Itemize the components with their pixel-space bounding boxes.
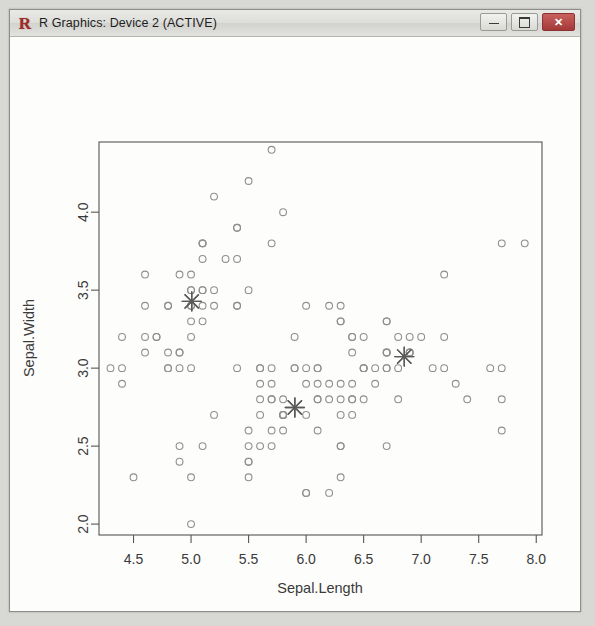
minimize-button[interactable] (480, 13, 507, 31)
cluster-centers-layer (182, 292, 414, 417)
maximize-button[interactable] (511, 13, 538, 31)
data-point (107, 365, 114, 372)
data-point (211, 193, 218, 200)
data-point (337, 474, 344, 481)
cluster-center-marker (182, 292, 201, 311)
window-controls: ✕ (480, 13, 575, 31)
data-point (257, 380, 264, 387)
x-tick-label: 4.5 (124, 551, 144, 567)
y-axis: 2.02.53.03.54.0 (75, 202, 99, 534)
data-point (268, 427, 275, 434)
data-point (257, 412, 264, 419)
data-point (441, 271, 448, 278)
y-tick-label: 4.0 (75, 202, 91, 222)
data-point (337, 380, 344, 387)
maximize-icon (519, 17, 530, 28)
data-point (280, 427, 287, 434)
data-point (211, 302, 218, 309)
data-point (153, 334, 160, 341)
data-point (498, 240, 505, 247)
r-logo-icon: R (16, 14, 34, 33)
data-point (245, 458, 252, 465)
data-point (130, 474, 137, 481)
y-axis-title: Sepal.Width (21, 299, 37, 377)
data-point (383, 349, 390, 356)
data-point (234, 365, 241, 372)
data-point (142, 334, 149, 341)
window-titlebar[interactable]: R R Graphics: Device 2 (ACTIVE) ✕ (10, 10, 580, 37)
data-point (441, 365, 448, 372)
data-point (234, 302, 241, 309)
data-point (487, 365, 494, 372)
data-point (395, 365, 402, 372)
data-point (314, 427, 321, 434)
data-point (303, 412, 310, 419)
data-point (441, 334, 448, 341)
x-tick-label: 6.5 (354, 551, 374, 567)
close-button[interactable]: ✕ (542, 13, 575, 31)
y-tick-label: 3.0 (75, 358, 91, 378)
data-point (245, 178, 252, 185)
data-point (268, 443, 275, 450)
data-points-layer (107, 146, 528, 527)
data-point (280, 396, 287, 403)
data-point (211, 412, 218, 419)
data-point (360, 396, 367, 403)
data-point (498, 365, 505, 372)
window-title: R Graphics: Device 2 (ACTIVE) (39, 16, 217, 30)
x-tick-label: 7.5 (469, 551, 489, 567)
data-point (406, 349, 413, 356)
x-axis: 4.55.05.56.06.57.07.58.0 (124, 535, 546, 567)
data-point (337, 318, 344, 325)
x-tick-label: 5.0 (181, 551, 201, 567)
data-point (245, 427, 252, 434)
data-point (326, 302, 333, 309)
minimize-icon (489, 20, 499, 24)
data-point (349, 334, 356, 341)
data-point (326, 380, 333, 387)
data-point (199, 256, 206, 263)
data-point (199, 240, 206, 247)
data-point (188, 474, 195, 481)
data-point (337, 412, 344, 419)
data-point (326, 489, 333, 496)
data-point (521, 240, 528, 247)
data-point (119, 365, 126, 372)
plot-canvas: 4.55.05.56.06.57.07.58.0 2.02.53.03.54.0… (10, 37, 580, 611)
y-tick-label: 2.5 (75, 436, 91, 456)
data-point (245, 474, 252, 481)
data-point (372, 365, 379, 372)
data-point (188, 365, 195, 372)
data-point (234, 256, 241, 263)
data-point (314, 396, 321, 403)
data-point (257, 443, 264, 450)
data-point (268, 396, 275, 403)
plot-frame (99, 142, 542, 535)
data-point (452, 380, 459, 387)
data-point (176, 458, 183, 465)
data-point (349, 412, 356, 419)
data-point (199, 287, 206, 294)
data-point (349, 349, 356, 356)
data-point (268, 365, 275, 372)
x-tick-label: 7.0 (411, 551, 431, 567)
data-point (498, 427, 505, 434)
y-tick-label: 2.0 (75, 514, 91, 534)
data-point (372, 380, 379, 387)
close-icon: ✕ (554, 17, 563, 27)
data-point (383, 318, 390, 325)
data-point (142, 349, 149, 356)
data-point (280, 412, 287, 419)
data-point (268, 380, 275, 387)
data-point (280, 209, 287, 216)
data-point (119, 380, 126, 387)
data-point (142, 271, 149, 278)
data-point (119, 334, 126, 341)
cluster-center-marker (285, 398, 304, 417)
data-point (360, 334, 367, 341)
data-point (222, 256, 229, 263)
data-point (268, 240, 275, 247)
data-point (176, 443, 183, 450)
data-point (337, 396, 344, 403)
data-point (142, 302, 149, 309)
